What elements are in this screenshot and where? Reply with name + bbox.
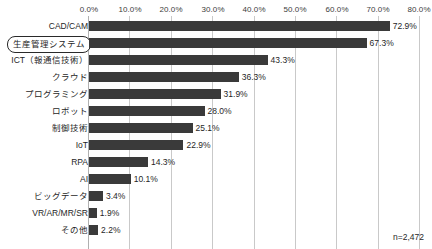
bar-row: AI10.1%: [0, 171, 432, 188]
category-label: AI: [80, 171, 88, 188]
bar: [89, 123, 193, 133]
bar: [89, 225, 98, 235]
bar: [89, 72, 239, 82]
bar-row: CAD/CAM72.9%: [0, 18, 432, 35]
x-tick-label-4: 40.0%: [242, 5, 265, 14]
x-tick-label-8: 80.0%: [407, 5, 430, 14]
bar-row: クラウド36.3%: [0, 69, 432, 86]
bar-row: プログラミング31.9%: [0, 86, 432, 103]
category-label: CAD/CAM: [49, 18, 88, 35]
bar-row: ICT（報通信技術）43.3%: [0, 52, 432, 69]
bar-value-label: 14.3%: [151, 154, 175, 171]
bar: [89, 191, 103, 201]
bar-value-label: 2.2%: [101, 222, 120, 239]
bar: [89, 106, 205, 116]
bar-row: 生産管理システム67.3%: [0, 35, 432, 52]
bar-chart: 0.0% 10.0% 20.0% 30.0% 40.0% 50.0% 60.0%…: [0, 0, 432, 249]
bar-row: RPA14.3%: [0, 154, 432, 171]
category-label: 制御技術: [52, 120, 88, 137]
x-tick-label-1: 10.0%: [118, 5, 141, 14]
x-tick-label-3: 30.0%: [201, 5, 224, 14]
bar-value-label: 3.4%: [106, 188, 125, 205]
category-label: VR/AR/MR/SR: [32, 205, 88, 222]
category-label: プログラミング: [25, 86, 88, 103]
bar-row: 制御技術25.1%: [0, 120, 432, 137]
bar-rows: CAD/CAM72.9%生産管理システム67.3%ICT（報通信技術）43.3%…: [0, 18, 432, 239]
bar: [89, 38, 367, 48]
x-tick-label-0: 0.0%: [80, 5, 99, 14]
bar-row: ロボット28.0%: [0, 103, 432, 120]
bar-value-label: 31.9%: [224, 86, 248, 103]
bar-value-label: 67.3%: [370, 35, 394, 52]
bar: [89, 174, 131, 184]
bar: [89, 208, 97, 218]
category-label: IoT: [76, 137, 88, 154]
bar: [89, 55, 268, 65]
bar-row: VR/AR/MR/SR1.9%: [0, 205, 432, 222]
bar-value-label: 43.3%: [271, 52, 295, 69]
x-tick-label-6: 60.0%: [325, 5, 348, 14]
bar-value-label: 10.1%: [134, 171, 158, 188]
category-label: その他: [61, 222, 88, 239]
bar: [89, 140, 183, 150]
bar-row: IoT22.9%: [0, 137, 432, 154]
sample-size-note: n=2,472: [393, 232, 424, 242]
category-label-highlighted: 生産管理システム: [7, 36, 91, 53]
x-tick-label-5: 50.0%: [283, 5, 306, 14]
category-label: RPA: [71, 154, 88, 171]
bar: [89, 21, 390, 31]
x-tick-label-2: 20.0%: [159, 5, 182, 14]
bar-value-label: 72.9%: [393, 18, 417, 35]
bar: [89, 89, 221, 99]
bar-value-label: 36.3%: [242, 69, 266, 86]
bar-value-label: 1.9%: [100, 205, 119, 222]
category-label: ICT（報通信技術）: [11, 52, 88, 69]
bar: [89, 157, 148, 167]
bar-value-label: 25.1%: [196, 120, 220, 137]
x-tick-label-7: 70.0%: [366, 5, 389, 14]
bar-value-label: 22.9%: [186, 137, 210, 154]
category-label: ビッグデータ: [34, 188, 88, 205]
bar-row: ビッグデータ3.4%: [0, 188, 432, 205]
bar-value-label: 28.0%: [208, 103, 232, 120]
category-label: クラウド: [52, 69, 88, 86]
category-label: ロボット: [52, 103, 88, 120]
bar-row: その他2.2%: [0, 222, 432, 239]
